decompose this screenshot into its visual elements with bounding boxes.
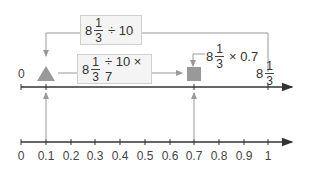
fraction: 13 xyxy=(94,17,103,44)
whole-part: 8 xyxy=(85,23,92,38)
operation: ÷ 10 × 7 xyxy=(105,54,147,84)
multiply-expression: 8 13 × 0.7 xyxy=(206,43,258,70)
tick-label: 0.8 xyxy=(211,149,228,163)
tick-label: 0 xyxy=(18,149,25,163)
top-zero-label: 0 xyxy=(18,68,25,80)
tick-label: 0.1 xyxy=(38,149,55,163)
whole-part: 8 xyxy=(206,49,213,64)
whole-part: 8 xyxy=(256,66,263,81)
fraction: 13 xyxy=(91,56,100,83)
tick-label: 0.5 xyxy=(137,149,154,163)
triangle-marker xyxy=(37,66,55,81)
tick-label: 0.7 xyxy=(186,149,203,163)
end-label: 8 13 xyxy=(256,60,276,87)
fraction: 13 xyxy=(215,43,224,70)
tick-label: 0.2 xyxy=(63,149,80,163)
square-marker xyxy=(187,67,201,81)
tick-label: 0.9 xyxy=(236,149,253,163)
tick-label: 1 xyxy=(265,149,272,163)
bottom-number-line xyxy=(21,139,292,145)
connector-multiply xyxy=(193,54,205,66)
whole-part: 8 xyxy=(82,62,89,77)
fraction: 13 xyxy=(265,60,274,87)
operation: × 0.7 xyxy=(229,49,258,64)
tick-label: 0.6 xyxy=(162,149,179,163)
divide-multiply-box: 8 13 ÷ 10 × 7 xyxy=(77,54,152,84)
operation: ÷ 10 xyxy=(108,23,133,38)
tick-label: 0.3 xyxy=(87,149,104,163)
top-number-line xyxy=(21,84,292,90)
tick-label: 0.4 xyxy=(112,149,129,163)
divide-box: 8 13 ÷ 10 xyxy=(80,15,142,45)
